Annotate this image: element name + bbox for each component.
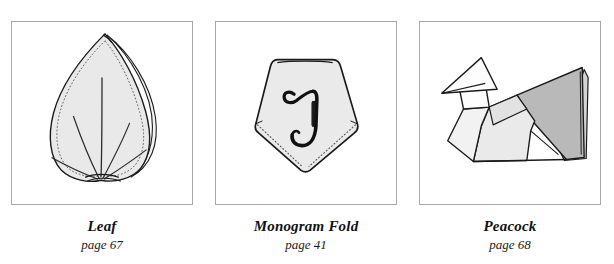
figure-frame-monogram-fold <box>215 21 397 205</box>
peacock-fold-illustration <box>420 22 600 204</box>
figure-panel-peacock: Peacock page 68 <box>408 0 612 264</box>
figure-page-reference: page 68 <box>483 238 536 252</box>
figure-caption-monogram-fold: Monogram Fold page 41 <box>254 219 359 251</box>
figure-page-reference: page 67 <box>81 238 123 252</box>
figure-page-reference: page 41 <box>254 238 359 252</box>
figure-panel-monogram-fold: Monogram Fold page 41 <box>204 0 408 264</box>
monogram-fold-illustration <box>216 22 396 204</box>
figure-frame-peacock <box>419 21 601 205</box>
figure-panel-leaf: Leaf page 67 <box>0 0 204 264</box>
figure-title: Peacock <box>483 219 536 235</box>
figure-title: Monogram Fold <box>254 219 359 235</box>
leaf-fold-illustration <box>12 22 192 204</box>
figure-title: Leaf <box>81 219 123 235</box>
figure-caption-peacock: Peacock page 68 <box>483 219 536 251</box>
figure-gallery: Leaf page 67 <box>0 0 614 264</box>
figure-caption-leaf: Leaf page 67 <box>81 219 123 251</box>
figure-frame-leaf <box>11 21 193 205</box>
